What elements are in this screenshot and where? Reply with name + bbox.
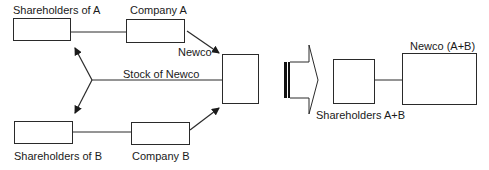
transform-arrow-icon — [284, 45, 318, 114]
arrow-company-b-newco — [190, 108, 219, 130]
shareholders-b-label: Shareholders of B — [14, 150, 102, 162]
arrow-stock-to-shareholders-b — [75, 80, 92, 113]
company-b-box — [131, 122, 190, 145]
shareholders-ab-box — [333, 59, 375, 104]
newco-box — [222, 54, 259, 104]
company-a-label: Company A — [130, 4, 187, 16]
shareholders-a-box — [13, 18, 71, 41]
company-b-label: Company B — [132, 150, 189, 162]
newco-label: Newco — [178, 46, 212, 58]
shareholders-ab-label: Shareholders A+B — [316, 109, 405, 121]
newco-ab-label: Newco (A+B) — [410, 40, 475, 52]
arrow-stock-to-shareholders-a — [75, 48, 92, 80]
company-a-box — [126, 19, 185, 43]
shareholders-b-box — [14, 121, 73, 144]
stock-of-newco-label: Stock of Newco — [123, 68, 199, 80]
shareholders-a-label: Shareholders of A — [13, 4, 100, 16]
newco-ab-box — [402, 53, 477, 105]
